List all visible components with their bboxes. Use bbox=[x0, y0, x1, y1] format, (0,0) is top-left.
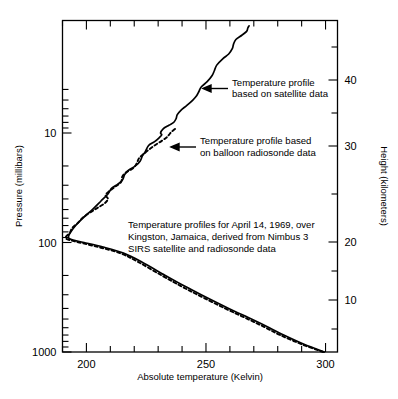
y2-axis-title: Height (kilometers) bbox=[379, 146, 390, 226]
chart-figure: 200250300 101001000 10203040 Temperature… bbox=[0, 0, 398, 399]
y2-tick-label: 20 bbox=[345, 236, 357, 248]
temperature-profile-chart: 200250300 101001000 10203040 Temperature… bbox=[0, 0, 398, 399]
satellite-callout-line2: based on satellite data bbox=[232, 88, 329, 99]
satellite-callout-line1: Temperature profile bbox=[232, 77, 315, 88]
caption-line1: Temperature profiles for April 14, 1969,… bbox=[128, 219, 315, 230]
y-tick-label: 100 bbox=[38, 237, 56, 249]
x-tick-label: 250 bbox=[197, 358, 215, 370]
radiosonde-callout-line2: on balloon radiosonde data bbox=[200, 147, 316, 158]
y-tick-label: 10 bbox=[44, 127, 56, 139]
radiosonde-callout-line1: Temperature profile based bbox=[200, 135, 311, 146]
y-tick-label: 1000 bbox=[32, 346, 56, 358]
y2-tick-label: 40 bbox=[345, 74, 357, 86]
chart-background bbox=[0, 0, 398, 399]
caption-line3: SIRS satellite and radiosonde data bbox=[128, 243, 276, 254]
y-axis-title: Pressure (millibars) bbox=[13, 145, 24, 227]
x-tick-label: 300 bbox=[316, 358, 334, 370]
caption-line2: Kingston, Jamaica, derived from Nimbus 3 bbox=[128, 231, 308, 242]
y2-tick-label: 30 bbox=[345, 140, 357, 152]
y2-tick-label: 10 bbox=[345, 294, 357, 306]
x-axis-title: Absolute temperature (Kelvin) bbox=[137, 371, 263, 382]
x-tick-label: 200 bbox=[77, 358, 95, 370]
